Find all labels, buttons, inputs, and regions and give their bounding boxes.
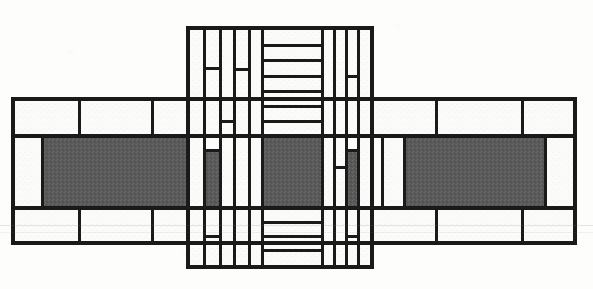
- col-stripA-bot: [188, 243, 204, 267]
- col-stripA-mid: [188, 99, 204, 243]
- right-cell-mid-right: [545, 136, 575, 208]
- column-dark-accent-left: [204, 150, 220, 208]
- left-cell-mid-left: [13, 136, 42, 208]
- left-cell-top-1: [13, 99, 79, 136]
- left-cell-top-3: [152, 99, 188, 136]
- col-stripC-top: [220, 28, 234, 121]
- col-stripC-bot: [220, 208, 234, 267]
- ladder-rung-top-7: [262, 121, 322, 136]
- right-cell-bot-2: [436, 208, 522, 243]
- col-stripD-mid: [234, 69, 249, 243]
- ladder-rung-bot-4: [262, 250, 322, 267]
- left-cell-top-2: [79, 99, 152, 136]
- col-stripH-3: [346, 208, 358, 236]
- col-stripI-mid: [358, 99, 372, 243]
- left-cell-bot-2: [79, 208, 152, 243]
- left-dark-rectangle: [42, 136, 188, 208]
- col-stripA-top: [188, 28, 204, 99]
- ladder-rung-top-6: [262, 106, 322, 121]
- col-stripE-bot: [249, 208, 262, 267]
- center-dark-rectangle: [262, 136, 322, 208]
- col-stripE-mid: [249, 136, 262, 208]
- col-stripG-1: [334, 28, 346, 99]
- col-stripI-top: [358, 28, 372, 99]
- col-stripB-3: [204, 208, 220, 236]
- col-stripB-1: [204, 28, 220, 68]
- left-cell-bot-3: [152, 208, 188, 243]
- right-cell-bot-3: [522, 208, 575, 243]
- ladder-rung-top-1: [262, 28, 322, 45]
- ladder-rung-top-2: [262, 45, 322, 60]
- ladder-rung-top-4: [262, 76, 322, 91]
- artwork-canvas: Abstract Rectilinear Composition: [0, 0, 593, 289]
- col-stripF-bot: [322, 208, 334, 267]
- right-connector-cell: [382, 136, 404, 208]
- col-stripF-mid: [322, 136, 334, 208]
- col-stripB-4: [204, 236, 220, 267]
- col-stripD-bot: [234, 243, 249, 267]
- ladder-rung-bot-2: [262, 222, 322, 236]
- col-stripG-3: [334, 167, 346, 243]
- col-stripF-top: [322, 28, 334, 136]
- col-stripD-top: [234, 28, 249, 69]
- col-stripH-4: [346, 236, 358, 267]
- col-stripE-top: [249, 28, 262, 136]
- left-cell-bot-1: [13, 208, 79, 243]
- geometric-composition-svg: [0, 0, 593, 289]
- col-stripH-1: [346, 28, 358, 76]
- col-stripG-4: [334, 243, 346, 267]
- right-dark-rectangle: [404, 136, 545, 208]
- right-cell-bot-1: [372, 208, 436, 243]
- col-stripC-mid: [220, 121, 234, 208]
- ladder-rung-bot-1: [262, 208, 322, 222]
- col-stripB-2: [204, 68, 220, 136]
- ladder-rung-top-3: [262, 60, 322, 76]
- right-cell-top-3: [522, 99, 575, 136]
- right-cell-top-1: [372, 99, 436, 136]
- right-cell-top-2: [436, 99, 522, 136]
- col-stripH-2: [346, 76, 358, 136]
- column-dark-accent-right: [346, 150, 358, 208]
- col-stripI-bot: [358, 243, 372, 267]
- col-stripG-2: [334, 99, 346, 167]
